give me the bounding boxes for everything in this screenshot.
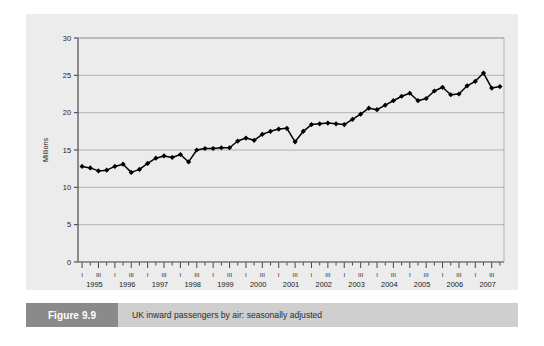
svg-text:I: I [180, 271, 182, 278]
svg-text:III: III [161, 271, 166, 278]
svg-text:30: 30 [63, 34, 71, 43]
svg-text:III: III [194, 271, 199, 278]
svg-text:I: I [81, 271, 83, 278]
figure-container: 051015202530 IIIIIIIIIIIIIIIIIIIIIIIIIII… [0, 0, 544, 346]
y-axis-title: Millions [41, 138, 50, 162]
svg-text:I: I [278, 271, 280, 278]
svg-text:1997: 1997 [152, 280, 168, 289]
figure-caption-bar: Figure 9.9 UK inward passengers by air: … [26, 303, 518, 327]
svg-text:20: 20 [63, 108, 71, 117]
svg-text:III: III [456, 271, 461, 278]
svg-text:I: I [343, 271, 345, 278]
svg-text:2004: 2004 [381, 280, 397, 289]
svg-text:10: 10 [63, 183, 71, 192]
gridlines [78, 38, 504, 225]
svg-text:2001: 2001 [283, 280, 299, 289]
line-chart: 051015202530 IIIIIIIIIIIIIIIIIIIIIIIIIII… [26, 14, 518, 290]
figure-number-badge: Figure 9.9 [26, 303, 118, 327]
svg-text:III: III [358, 271, 363, 278]
svg-text:III: III [489, 271, 494, 278]
svg-text:I: I [376, 271, 378, 278]
svg-text:I: I [311, 271, 313, 278]
svg-text:1998: 1998 [184, 280, 200, 289]
figure-title-box: UK inward passengers by air: seasonally … [118, 303, 518, 327]
svg-text:1999: 1999 [217, 280, 233, 289]
svg-text:2002: 2002 [316, 280, 332, 289]
svg-text:I: I [442, 271, 444, 278]
svg-text:1995: 1995 [86, 280, 102, 289]
svg-text:1996: 1996 [119, 280, 135, 289]
svg-text:5: 5 [67, 220, 71, 229]
svg-text:2005: 2005 [414, 280, 430, 289]
figure-title-label: UK inward passengers by air: seasonally … [132, 310, 322, 320]
svg-text:I: I [114, 271, 116, 278]
svg-text:III: III [129, 271, 134, 278]
svg-text:I: I [147, 271, 149, 278]
svg-text:I: I [212, 271, 214, 278]
svg-text:III: III [293, 271, 298, 278]
svg-text:III: III [424, 271, 429, 278]
svg-text:III: III [260, 271, 265, 278]
chart-panel: 051015202530 IIIIIIIIIIIIIIIIIIIIIIIIIII… [26, 14, 518, 290]
svg-text:III: III [227, 271, 232, 278]
svg-text:I: I [474, 271, 476, 278]
svg-text:III: III [96, 271, 101, 278]
data-series [79, 70, 502, 175]
svg-text:2007: 2007 [479, 280, 495, 289]
svg-text:Millions: Millions [41, 138, 50, 162]
figure-number-label: Figure 9.9 [48, 310, 96, 321]
svg-text:III: III [325, 271, 330, 278]
y-axis-ticks: 051015202530 [63, 34, 78, 267]
svg-text:I: I [409, 271, 411, 278]
svg-text:2006: 2006 [447, 280, 463, 289]
svg-text:III: III [391, 271, 396, 278]
svg-text:0: 0 [67, 258, 71, 267]
svg-text:25: 25 [63, 71, 71, 80]
svg-text:2000: 2000 [250, 280, 266, 289]
svg-text:I: I [245, 271, 247, 278]
svg-text:15: 15 [63, 146, 71, 155]
svg-text:2003: 2003 [348, 280, 364, 289]
x-axis-ticks: IIIIIIIIIIIIIIIIIIIIIIIIIIIIIIIIIIIIIIII… [81, 262, 500, 289]
